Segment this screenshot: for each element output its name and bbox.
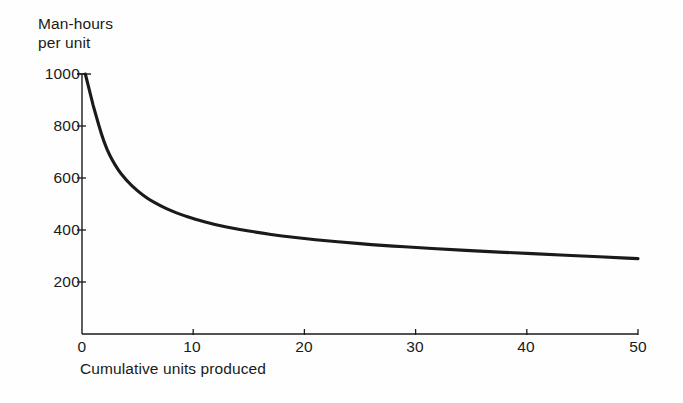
learning-curve-line xyxy=(85,74,638,259)
chart-plot-area xyxy=(0,0,683,403)
chart-figure: Man-hours per unit 1000 800 600 400 200 … xyxy=(0,0,683,403)
y-axis-tick-marks xyxy=(77,74,91,282)
